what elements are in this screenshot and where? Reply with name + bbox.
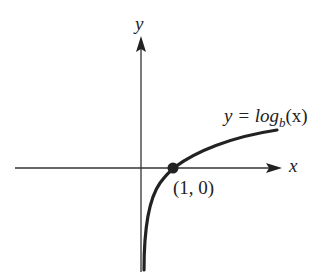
y-axis-label: y [135,14,143,33]
point-label: (1, 0) [173,178,214,197]
x-axis-label: x [289,156,297,175]
equation-rhs: (x) [286,105,308,126]
equation-label: y = logb(x) [224,106,308,129]
log-graph-diagram: y x y = logb(x) (1, 0) [0,0,331,279]
point-1-0-marker [168,163,179,174]
plot-canvas [0,0,331,279]
equation-lhs: y = log [224,105,279,126]
log-curve [144,130,277,270]
